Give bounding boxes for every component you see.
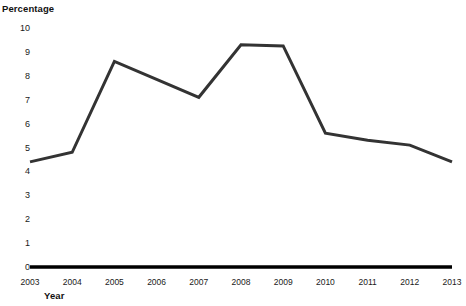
x-tick-label: 2006 [137, 277, 177, 287]
x-tick-label: 2009 [263, 277, 303, 287]
data-series-line [30, 45, 452, 162]
x-tick-label: 2013 [432, 277, 466, 287]
x-tick-label: 2003 [10, 277, 50, 287]
x-tick-label: 2010 [305, 277, 345, 287]
x-tick-label: 2007 [179, 277, 219, 287]
x-tick-label: 2005 [94, 277, 134, 287]
x-tick-label: 2004 [52, 277, 92, 287]
x-axis-title: Year [44, 290, 64, 301]
x-tick-label: 2011 [348, 277, 388, 287]
x-tick-label: 2008 [221, 277, 261, 287]
x-tick-label: 2012 [390, 277, 430, 287]
